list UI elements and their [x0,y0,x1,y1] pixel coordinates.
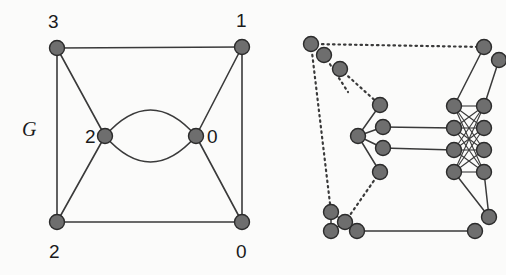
right-graph-node [373,98,388,113]
left-graph: 312020 G [22,10,250,262]
left-graph-node [235,40,250,55]
left-edge [57,136,105,222]
right-graph-node [324,205,339,220]
right-graph-node [304,37,319,52]
right-graph [304,37,506,239]
right-graph-node [350,224,365,239]
left-edge [196,47,242,136]
right-graph-node [477,165,492,180]
right-edge-solid [383,148,454,150]
left-graph-node [50,41,65,56]
left-node-label: 2 [85,126,96,147]
right-graph-node [376,120,391,135]
right-graph-node [482,210,497,225]
left-node-label: 2 [49,241,60,262]
left-edge [57,47,242,48]
left-edge-curved [105,110,196,136]
right-graph-node [468,224,483,239]
left-node-label: 0 [207,126,218,147]
left-graph-node [235,215,250,230]
right-graph-node [447,143,462,158]
left-graph-node [98,129,113,144]
right-graph-node [333,62,348,77]
right-graph-node [447,165,462,180]
right-graph-node [317,48,332,63]
right-graph-node [477,40,492,55]
left-node-label: 3 [48,11,59,32]
figure-root: 312020 G [0,0,506,275]
right-edge-solid [454,47,484,106]
left-node-label: 0 [236,241,247,262]
right-graph-node [447,99,462,114]
right-graph-node [477,99,492,114]
left-graph-node [189,129,204,144]
left-edge-curved [105,136,196,162]
right-edge-solid [383,127,454,128]
right-edge-dotted [345,172,380,222]
left-graph-node [50,215,65,230]
right-edge-dotted [311,44,331,212]
right-graph-node [373,165,388,180]
figure-canvas: 312020 G [0,0,506,275]
right-graph-node [477,121,492,136]
left-node-label: 1 [236,10,247,31]
left-edge [57,48,105,136]
left-edge [196,136,242,222]
right-graph-node [477,143,492,158]
right-graph-node [492,53,506,68]
right-edge-dotted [311,44,484,47]
right-graph-bipartite-crossing-edges [454,106,484,172]
left-graph-nodes [50,40,250,230]
graph-caption-G: G [22,118,37,140]
right-graph-node [447,121,462,136]
right-graph-node [351,129,366,144]
right-graph-node [376,141,391,156]
right-graph-node [324,224,339,239]
